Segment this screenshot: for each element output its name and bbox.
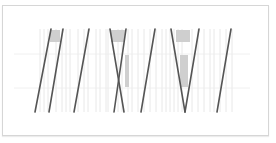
vertical-gridlines — [40, 29, 232, 112]
shaded-regions — [50, 30, 190, 87]
shaded-region — [50, 30, 60, 42]
data-lines — [35, 29, 231, 112]
shaded-region — [176, 30, 190, 42]
chart-plot-area — [0, 0, 276, 143]
data-line — [141, 29, 155, 112]
shaded-region — [125, 55, 129, 87]
data-line — [217, 29, 231, 112]
data-line — [74, 29, 89, 112]
data-line — [35, 29, 51, 112]
shaded-region — [111, 30, 125, 42]
shaded-region — [180, 55, 188, 87]
